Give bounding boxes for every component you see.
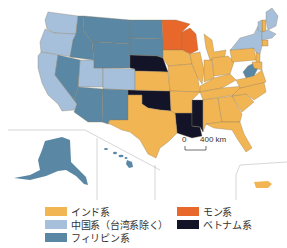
state-south-dakota <box>130 38 163 58</box>
legend-label: ベトナム系 <box>203 217 252 232</box>
swatch-hmong <box>177 207 199 216</box>
legend-item-chinese: 中国系（台湾系除く） <box>45 219 168 230</box>
state-vermont <box>258 20 262 32</box>
legend-item-hmong: モン系 <box>177 206 232 217</box>
swatch-indian <box>45 207 67 216</box>
legend-item-filipino: フィリピン系 <box>45 232 129 243</box>
state-alaska <box>14 137 88 185</box>
state-kansas <box>135 71 170 91</box>
legend-item-vietnamese: ベトナム系 <box>177 219 252 230</box>
state-pennsylvania <box>230 48 256 62</box>
swatch-vietnamese <box>177 220 199 229</box>
state-connecticut <box>262 40 268 46</box>
scale-distance: 400 km <box>200 135 226 144</box>
us-map <box>0 0 287 200</box>
state-maine <box>266 8 278 30</box>
region-hmong <box>162 20 198 54</box>
state-new-mexico <box>102 89 128 124</box>
state-wyoming <box>92 42 130 68</box>
state-hawaii <box>104 148 133 168</box>
state-arizona <box>74 87 103 122</box>
legend-item-indian: インド系 <box>45 206 110 217</box>
territory-puerto-rico <box>254 181 272 188</box>
state-north-dakota <box>130 20 163 39</box>
swatch-chinese <box>45 220 67 229</box>
state-michigan <box>204 34 226 60</box>
region-chinese-northeast <box>230 8 278 54</box>
scale-zero: 0 <box>182 135 186 144</box>
state-washington <box>45 12 78 34</box>
state-nh-strip <box>262 20 266 32</box>
state-wisconsin <box>182 28 198 54</box>
scale-bar <box>185 146 206 150</box>
swatch-filipino <box>45 233 67 242</box>
state-massachusetts <box>262 30 276 40</box>
state-ohio <box>212 56 234 76</box>
state-colorado <box>103 68 135 90</box>
legend-label: フィリピン系 <box>71 230 129 245</box>
legend: インド系 中国系（台湾系除く） フィリピン系 モン系 ベトナム系 <box>0 206 287 248</box>
